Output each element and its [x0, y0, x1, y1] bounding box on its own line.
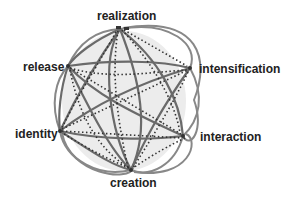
node-label-release: release — [23, 61, 64, 73]
node-label-realization: realization — [97, 10, 156, 22]
node-label-intensification: intensification — [199, 63, 280, 75]
node-label-creation: creation — [110, 177, 157, 189]
node-marker-interaction — [181, 134, 185, 138]
node-label-identity: identity — [15, 128, 58, 140]
network-graph — [0, 0, 285, 199]
node-marker-release — [66, 64, 70, 68]
node-label-interaction: interaction — [200, 131, 261, 143]
node-marker-realization-2 — [124, 27, 129, 30]
node-marker-creation — [129, 168, 133, 172]
node-marker-realization — [116, 26, 121, 29]
node-marker-identity — [58, 129, 62, 133]
network-diagram: realization intensification interaction … — [0, 0, 285, 199]
node-marker-intensification — [188, 66, 192, 70]
